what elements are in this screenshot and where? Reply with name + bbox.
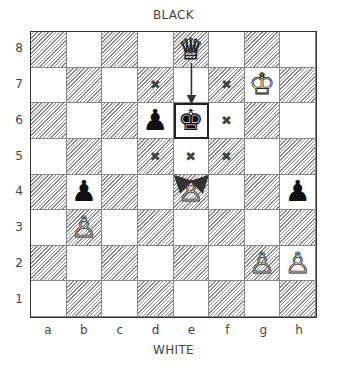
square-e4: ♙: [174, 175, 210, 211]
square-g3: [245, 210, 281, 246]
square-f3: [209, 210, 245, 246]
square-b5: [67, 139, 103, 175]
bottom-side-label: WHITE: [30, 343, 317, 357]
square-a2: [31, 246, 67, 282]
white-pawn-icon: ♙: [280, 246, 315, 281]
rank-label-3: 3: [14, 220, 24, 234]
square-f1: [209, 281, 245, 317]
square-h1: [280, 281, 316, 317]
square-b7: [67, 68, 103, 104]
rank-label-2: 2: [14, 256, 24, 270]
square-e3: [174, 210, 210, 246]
rank-label-8: 8: [14, 41, 24, 55]
square-a5: [31, 139, 67, 175]
file-label-h: h: [281, 323, 317, 337]
controlled-square-x-icon: ✖: [209, 68, 244, 103]
top-side-label: BLACK: [30, 8, 317, 22]
black-king-icon: ♚: [174, 103, 209, 138]
square-b1: [67, 281, 103, 317]
square-e1: [174, 281, 210, 317]
rank-label-1: 1: [14, 292, 24, 306]
controlled-square-x-icon: ✖: [138, 139, 173, 174]
square-d2: [138, 246, 174, 282]
controlled-square-x-icon: ✖: [174, 139, 209, 174]
square-b2: [67, 246, 103, 282]
square-e5: ✖: [174, 139, 210, 175]
square-d5: ✖: [138, 139, 174, 175]
black-pawn-icon: ♟: [138, 103, 173, 138]
rank-label-6: 6: [14, 113, 24, 127]
square-c1: [102, 281, 138, 317]
square-b6: [67, 103, 103, 139]
square-g2: ♙: [245, 246, 281, 282]
controlled-square-x-icon: ✖: [209, 139, 244, 174]
square-h7: [280, 68, 316, 104]
black-pawn-icon: ♟: [280, 175, 315, 210]
square-e8: ♕: [174, 32, 210, 68]
square-f7: ✖: [209, 68, 245, 104]
file-label-f: f: [209, 323, 245, 337]
square-f8: [209, 32, 245, 68]
rank-label-7: 7: [14, 77, 24, 91]
square-g8: [245, 32, 281, 68]
square-g6: [245, 103, 281, 139]
square-a1: [31, 281, 67, 317]
file-label-c: c: [102, 323, 138, 337]
square-c5: [102, 139, 138, 175]
rank-label-4: 4: [14, 184, 24, 198]
square-d8: [138, 32, 174, 68]
square-f4: [209, 175, 245, 211]
square-a3: [31, 210, 67, 246]
square-d7: ✖: [138, 68, 174, 104]
square-f2: [209, 246, 245, 282]
file-label-b: b: [66, 323, 102, 337]
square-d1: [138, 281, 174, 317]
square-a7: [31, 68, 67, 104]
square-c8: [102, 32, 138, 68]
file-label-d: d: [138, 323, 174, 337]
square-f6: ✖: [209, 103, 245, 139]
square-d6: ♟: [138, 103, 174, 139]
rank-label-5: 5: [14, 149, 24, 163]
square-h8: [280, 32, 316, 68]
square-c6: [102, 103, 138, 139]
white-pawn-icon: ♙: [245, 246, 280, 281]
square-a8: [31, 32, 67, 68]
white-king-icon: ♔: [245, 68, 280, 103]
square-c7: [102, 68, 138, 104]
square-g4: [245, 175, 281, 211]
square-a4: [31, 175, 67, 211]
controlled-square-x-icon: ✖: [209, 103, 244, 138]
square-h2: ♙: [280, 246, 316, 282]
square-c4: [102, 175, 138, 211]
controlled-square-x-icon: ✖: [138, 68, 173, 103]
square-e2: [174, 246, 210, 282]
square-b3: ♙: [67, 210, 103, 246]
square-b8: [67, 32, 103, 68]
file-label-g: g: [245, 323, 281, 337]
square-b4: ♟: [67, 175, 103, 211]
file-label-e: e: [174, 323, 210, 337]
square-g5: [245, 139, 281, 175]
square-h4: ♟: [280, 175, 316, 211]
square-d4: [138, 175, 174, 211]
square-h5: [280, 139, 316, 175]
square-c2: [102, 246, 138, 282]
square-g7: ♔: [245, 68, 281, 104]
square-d3: [138, 210, 174, 246]
white-pawn-icon: ♙: [67, 210, 102, 245]
square-c3: [102, 210, 138, 246]
square-a6: [31, 103, 67, 139]
square-h6: [280, 103, 316, 139]
square-f5: ✖: [209, 139, 245, 175]
square-g1: [245, 281, 281, 317]
square-h3: [280, 210, 316, 246]
square-e7: [174, 68, 210, 104]
white-queen-icon: ♕: [174, 32, 209, 67]
chess-board: ♕✖✖♔♟♚✖✖✖✖♟♙♟♙♙♙: [30, 31, 317, 318]
square-e6: ♚: [174, 103, 210, 139]
white-pawn-icon: ♙: [174, 175, 209, 210]
file-label-a: a: [30, 323, 66, 337]
black-pawn-icon: ♟: [67, 175, 102, 210]
